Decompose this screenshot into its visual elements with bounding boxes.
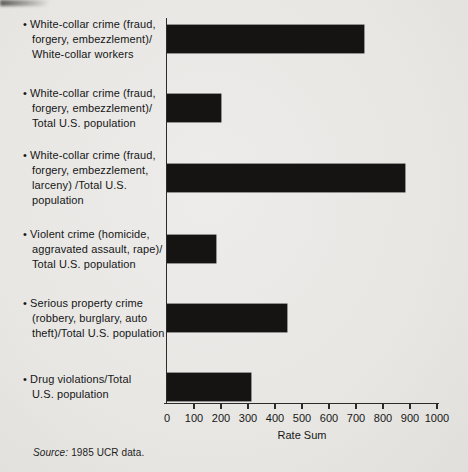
source-text: 1985 UCR data. [71, 447, 144, 458]
tick-mark [409, 403, 410, 409]
tick-mark [355, 403, 356, 409]
tick-mark [274, 403, 275, 409]
bar [167, 25, 364, 53]
chart-row: • White-collar crime (fraud, forgery, em… [0, 73, 468, 143]
chart-row: • White-collar crime (fraud, forgery, em… [0, 143, 468, 213]
tick-label: 1000 [420, 412, 454, 424]
chart-row: • Violent crime (homicide, aggravated as… [0, 214, 468, 284]
bar-chart-figure: • White-collar crime (fraud, forgery, em… [0, 0, 468, 472]
tick-mark [301, 403, 302, 409]
category-label: • White-collar crime (fraud, forgery, em… [23, 17, 175, 62]
source-label: Source: [33, 447, 68, 458]
tick-mark [382, 403, 383, 409]
tick-mark [247, 403, 248, 409]
tick-mark [436, 403, 437, 409]
category-label: • Violent crime (homicide, aggravated as… [23, 227, 175, 272]
tick-mark [220, 403, 221, 409]
bar [167, 304, 287, 332]
tick-mark [328, 403, 329, 409]
chart-row: • White-collar crime (fraud, forgery, em… [0, 4, 468, 74]
category-label: • White-collar crime (fraud, forgery, em… [23, 86, 175, 131]
bar [167, 235, 216, 263]
bar [167, 373, 251, 401]
chart-row: • Serious property crime (robbery, burgl… [0, 283, 468, 353]
category-label: • White-collar crime (fraud, forgery, em… [23, 148, 175, 208]
category-label: • Drug violations/Total U.S. population [23, 372, 175, 402]
bar [167, 94, 221, 122]
category-label: • Serious property crime (robbery, burgl… [23, 296, 175, 341]
x-axis-title: Rate Sum [261, 429, 343, 441]
bar [167, 164, 405, 192]
y-axis-line [166, 18, 168, 404]
source-note: Source:1985 UCR data. [33, 447, 144, 458]
tick-mark [193, 403, 194, 409]
